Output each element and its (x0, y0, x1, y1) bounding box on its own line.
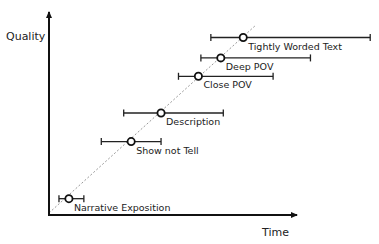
data-point-marker (157, 109, 164, 116)
data-point-marker (195, 73, 202, 80)
data-point-marker (240, 34, 247, 41)
data-point-group: Deep POV (201, 54, 311, 72)
y-axis-label: Quality (6, 30, 46, 43)
quality-time-chart: Quality Time Narrative ExpositionShow no… (0, 0, 379, 244)
data-point-group: Tightly Worded Text (211, 34, 370, 52)
data-point-group: Close POV (178, 73, 273, 91)
x-axis-label: Time (261, 226, 289, 239)
data-point-group: Description (124, 109, 224, 127)
data-point-label: Narrative Exposition (74, 202, 171, 213)
data-point-group: Narrative Exposition (59, 195, 170, 213)
data-point-label: Close POV (203, 79, 252, 90)
data-point-marker (217, 54, 224, 61)
data-point-label: Show not Tell (136, 145, 199, 156)
data-point-label: Deep POV (226, 61, 274, 72)
data-point-label: Tightly Worded Text (247, 41, 342, 52)
data-point-label: Description (166, 116, 220, 127)
data-point-marker (65, 195, 72, 202)
data-point-group: Show not Tell (101, 138, 198, 156)
trend-line (49, 25, 256, 213)
data-point-marker (128, 138, 135, 145)
